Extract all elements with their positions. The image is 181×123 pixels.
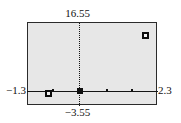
axis-tick-dot <box>131 89 133 91</box>
x-axis-max-label: 2.3 <box>158 84 181 96</box>
y-axis-min-label: −3.55 <box>0 106 168 118</box>
plot-frame <box>27 22 157 105</box>
data-point-marker[interactable] <box>45 90 52 97</box>
origin-marker <box>77 88 83 94</box>
plot-area <box>28 23 156 104</box>
axis-tick-dot <box>52 89 54 91</box>
data-point-marker[interactable] <box>142 32 149 39</box>
y-axis-max-label: 16.55 <box>0 7 168 19</box>
x-axis-min-label: −1.3 <box>0 84 26 96</box>
axis-tick-dot <box>106 89 108 91</box>
graph-figure: 16.55 −1.3 2.3 −3.55 <box>0 0 181 123</box>
